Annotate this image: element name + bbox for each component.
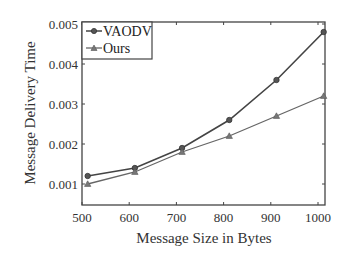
x-axis-label: Message Size in Bytes: [136, 230, 272, 246]
line-chart: 0.0010.0020.0030.0040.005 50060070080090…: [0, 0, 349, 254]
data-point: [321, 29, 326, 34]
y-tick-label: 0.003: [49, 97, 78, 112]
x-tick-label: 1000: [305, 210, 331, 225]
y-tick-label: 0.001: [49, 177, 78, 192]
data-point: [274, 77, 279, 82]
data-point: [85, 173, 90, 178]
x-tick-label: 600: [119, 210, 139, 225]
y-axis-label: Message Delivery Time: [22, 41, 38, 185]
y-tick-label: 0.005: [49, 17, 78, 32]
x-tick-label: 900: [261, 210, 281, 225]
circle-marker-icon: [91, 28, 96, 33]
legend-label-vaodv: VAODV: [103, 24, 152, 39]
legend: VAODV Ours: [82, 22, 152, 59]
y-tick-label: 0.002: [49, 137, 78, 152]
x-tick-label: 700: [167, 210, 187, 225]
data-point: [227, 117, 232, 122]
legend-label-ours: Ours: [103, 41, 130, 56]
y-tick-label: 0.004: [49, 57, 79, 72]
x-tick-label: 800: [214, 210, 234, 225]
x-tick-label: 500: [72, 210, 92, 225]
